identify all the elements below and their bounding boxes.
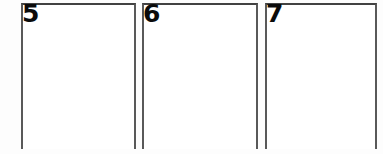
panel-label-7: 7	[266, 1, 283, 26]
panel-sequence-canvas: 5 6 7	[0, 0, 383, 154]
panel-7[interactable]: 7	[265, 3, 377, 149]
panel-label-5: 5	[22, 1, 39, 26]
panel-6[interactable]: 6	[142, 3, 258, 149]
panel-5[interactable]: 5	[21, 3, 136, 149]
panel-label-6: 6	[143, 1, 160, 26]
